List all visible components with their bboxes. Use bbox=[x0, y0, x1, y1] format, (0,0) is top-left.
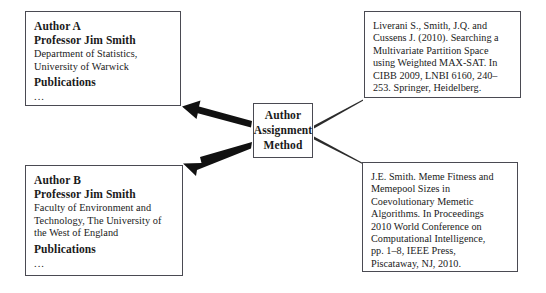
line-method-to-citation-bottom bbox=[314, 137, 362, 164]
author-b-publications-ellipsis: ... bbox=[34, 258, 182, 270]
citation-top-box: Liverani S., Smith, J.Q. and Cussens J. … bbox=[364, 11, 521, 98]
citation-top-line-5: CIBB 2009, LNBI 6160, 240– bbox=[373, 70, 513, 82]
author-a-affiliation-line-2: University of Warwick bbox=[34, 61, 180, 74]
citation-top-line-3: Multivariate Partition Space bbox=[373, 45, 513, 57]
arrow-method-to-author-b bbox=[183, 142, 252, 176]
author-b-name: Professor Jim Smith bbox=[34, 187, 182, 202]
citation-bottom-line-3: Coevolutionary Memetic bbox=[371, 196, 510, 208]
citation-bottom-line-7: pp. 1–8, IEEE Press, bbox=[371, 245, 510, 257]
method-line-1: Author bbox=[265, 108, 301, 123]
citation-top-line-6: 253. Springer, Heidelberg. bbox=[373, 82, 513, 94]
author-a-publications-ellipsis: ... bbox=[34, 91, 180, 103]
author-assignment-method-box: Author Assignment Method bbox=[253, 103, 313, 158]
citation-bottom-line-2: Memepool Sizes in bbox=[371, 183, 510, 195]
citation-bottom-line-1: J.E. Smith. Meme Fitness and bbox=[371, 171, 510, 183]
diagram-canvas: Author A Professor Jim Smith Department … bbox=[0, 0, 546, 293]
author-b-box: Author B Professor Jim Smith Faculty of … bbox=[25, 165, 183, 276]
author-b-affiliation-line-2: Technology, The University of bbox=[34, 215, 182, 228]
line-method-to-citation-top bbox=[314, 100, 363, 129]
citation-top-line-2: Cussens J. (2010). Searching a bbox=[373, 32, 513, 44]
citation-bottom-box: J.E. Smith. Meme Fitness and Memepool Si… bbox=[362, 162, 518, 272]
author-a-affiliation-line-1: Department of Statistics, bbox=[34, 48, 180, 61]
author-b-affiliation-line-1: Faculty of Environment and bbox=[34, 202, 182, 215]
author-a-box: Author A Professor Jim Smith Department … bbox=[25, 11, 181, 106]
author-b-title: Author B bbox=[34, 173, 182, 187]
citation-top-line-1: Liverani S., Smith, J.Q. and bbox=[373, 20, 513, 32]
citation-bottom-line-8: Piscataway, NJ, 2010. bbox=[371, 258, 510, 270]
author-b-affiliation-line-3: the West of England bbox=[34, 227, 182, 240]
author-a-name: Professor Jim Smith bbox=[34, 33, 180, 48]
method-line-2: Assignment bbox=[254, 123, 313, 138]
citation-bottom-line-5: 2010 World Conference on bbox=[371, 221, 510, 233]
arrow-method-to-author-a bbox=[182, 101, 252, 128]
citation-top-line-4: using Weighted MAX-SAT. In bbox=[373, 57, 513, 69]
author-a-title: Author A bbox=[34, 19, 180, 33]
citation-bottom-line-6: Computational Intelligence, bbox=[371, 233, 510, 245]
citation-bottom-line-4: Algorithms. In Proceedings bbox=[371, 208, 510, 220]
author-b-publications-heading: Publications bbox=[34, 242, 182, 257]
author-a-publications-heading: Publications bbox=[34, 75, 180, 90]
method-line-3: Method bbox=[264, 138, 303, 153]
